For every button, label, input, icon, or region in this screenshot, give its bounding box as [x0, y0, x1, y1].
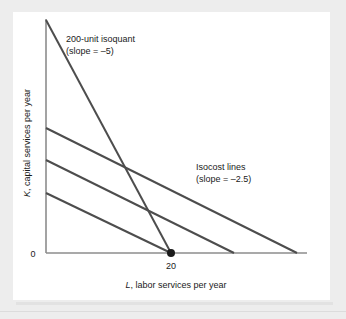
- isoquant-isocost-chart: 200-unit isoquant (slope = –5) Isocost l…: [0, 0, 346, 319]
- isocost-line-low: [46, 193, 171, 253]
- x-tick-label-20: 20: [166, 261, 176, 271]
- y-axis-title: K, capital services per year: [22, 89, 32, 197]
- isocost-annotation-line1: Isocost lines: [196, 162, 246, 172]
- y-axis-title-text: , capital services per year: [22, 89, 32, 191]
- isocost-annotation-line2: (slope = –2.5): [196, 174, 251, 184]
- isocost-line-high: [46, 128, 297, 253]
- isoquant-annotation-line2: (slope = –5): [66, 46, 114, 56]
- figure-container: 200-unit isoquant (slope = –5) Isocost l…: [0, 0, 346, 319]
- x-axis-title: L, labor services per year: [125, 280, 226, 290]
- origin-tick-label: 0: [30, 249, 35, 259]
- x-axis-title-text: , labor services per year: [130, 280, 226, 290]
- tangency-point-marker: [167, 249, 175, 257]
- isoquant-annotation-line1: 200-unit isoquant: [66, 34, 136, 44]
